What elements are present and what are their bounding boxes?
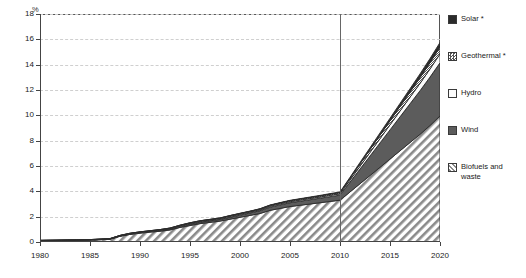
x-axis-tick xyxy=(290,242,291,246)
x-axis-tick-label: 1985 xyxy=(70,251,110,260)
x-axis-tick-label: 1990 xyxy=(120,251,160,260)
stacked-area-series xyxy=(40,14,440,242)
y-axis-tick-label: 2 xyxy=(8,211,34,220)
x-axis-tick xyxy=(340,242,341,246)
x-axis-tick xyxy=(140,242,141,246)
y-axis-tick xyxy=(36,217,40,218)
y-axis-tick-label: 0 xyxy=(8,237,34,246)
legend-item[interactable]: Wind xyxy=(448,125,478,135)
light-swatch-icon xyxy=(448,89,457,98)
legend-item[interactable]: Biofuels and waste xyxy=(448,162,503,181)
legend-item[interactable]: Hydro xyxy=(448,88,481,98)
legend-item[interactable]: Solar * xyxy=(448,14,484,24)
x-axis-tick-label: 1995 xyxy=(170,251,210,260)
y-axis-tick-label: 8 xyxy=(8,135,34,144)
solid-dark-swatch-icon xyxy=(448,126,457,135)
y-axis-tick xyxy=(36,191,40,192)
legend-item-label: Biofuels and waste xyxy=(461,162,503,181)
y-axis-tick-label: 18 xyxy=(8,9,34,18)
x-axis-tick-label: 2010 xyxy=(320,251,360,260)
y-axis-tick-label: 14 xyxy=(8,59,34,68)
y-axis-line xyxy=(40,14,41,242)
y-axis-tick-label: 6 xyxy=(8,161,34,170)
y-axis-tick-label: 16 xyxy=(8,34,34,43)
solid-black-swatch-icon xyxy=(448,15,457,24)
x-axis-tick xyxy=(40,242,41,246)
x-axis-tick xyxy=(240,242,241,246)
legend-item-label: Geothermal * xyxy=(461,51,506,61)
chart-container: % 024681012141618 1980198519901995200 xyxy=(0,0,526,278)
y-axis-tick xyxy=(36,90,40,91)
x-axis-tick xyxy=(390,242,391,246)
y-axis-tick-label: 12 xyxy=(8,85,34,94)
y-axis-tick-label: 4 xyxy=(8,186,34,195)
y-axis-tick xyxy=(36,39,40,40)
projection-divider-line xyxy=(340,14,341,242)
y-axis-tick-label: 10 xyxy=(8,110,34,119)
y-axis-tick xyxy=(36,65,40,66)
y-axis-tick xyxy=(36,14,40,15)
hatch-swatch-icon xyxy=(448,163,457,172)
legend-item-label: Hydro xyxy=(461,88,481,98)
x-axis-tick-label: 2000 xyxy=(220,251,260,260)
x-axis-tick-label: 2020 xyxy=(420,251,460,260)
x-axis-tick xyxy=(190,242,191,246)
legend-item-label: Solar * xyxy=(461,14,484,24)
x-axis-tick-label: 2005 xyxy=(270,251,310,260)
y-axis-tick xyxy=(36,166,40,167)
x-axis-tick xyxy=(90,242,91,246)
x-axis-tick-label: 2015 xyxy=(370,251,410,260)
x-axis-tick-label: 1980 xyxy=(20,251,60,260)
x-axis-tick xyxy=(440,242,441,246)
y-axis-tick xyxy=(36,141,40,142)
checker-swatch-icon xyxy=(448,52,457,61)
y-axis-tick xyxy=(36,115,40,116)
plot-area: 024681012141618 198019851990199520002005… xyxy=(40,14,440,242)
legend-item[interactable]: Geothermal * xyxy=(448,51,506,61)
legend-item-label: Wind xyxy=(461,125,478,135)
